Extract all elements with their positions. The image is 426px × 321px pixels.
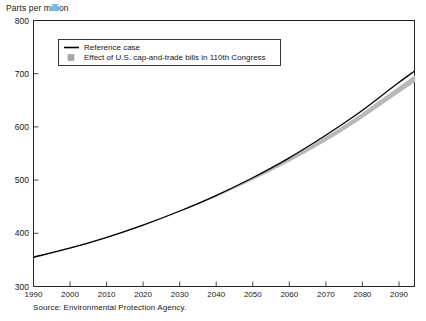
y-tick-label: 500 [15, 175, 29, 185]
x-tick-label: 2020 [134, 290, 152, 299]
x-tick-label: 2070 [317, 290, 335, 299]
y-tick-marks [34, 21, 39, 287]
cap-and-trade-band [34, 76, 415, 257]
x-tick-label: 2000 [61, 290, 79, 299]
chart-figure: Parts per million 800 700 600 500 400 30… [0, 0, 426, 321]
legend-label-reference: Reference case [84, 43, 141, 52]
y-tick-label: 800 [15, 16, 29, 26]
x-tick-label: 2010 [98, 290, 116, 299]
x-tick-label: 2050 [244, 290, 262, 299]
x-tick-label: 2090 [390, 290, 408, 299]
y-tick-labels: 800 700 600 500 400 300 [15, 16, 29, 292]
source-note: Source: Environmental Protection Agency. [33, 303, 186, 312]
legend-square-swatch [68, 55, 74, 61]
x-tick-label: 2040 [207, 290, 225, 299]
x-tick-labels: 1990 2000 2010 2020 2030 2040 2050 2060 … [25, 290, 409, 299]
y-tick-label: 600 [15, 122, 29, 132]
y-tick-label: 400 [15, 228, 29, 238]
plot-area: 800 700 600 500 400 300 1990 2000 2010 [0, 0, 426, 321]
y-tick-label: 700 [15, 69, 29, 79]
x-tick-label: 2030 [171, 290, 189, 299]
x-tick-label: 2060 [280, 290, 298, 299]
data-layer [34, 71, 415, 257]
chart-legend: Reference case Effect of U.S. cap-and-tr… [59, 40, 281, 66]
reference-case-line [34, 71, 415, 257]
x-tick-label: 2080 [354, 290, 372, 299]
x-tick-marks [34, 282, 400, 287]
x-tick-label: 1990 [25, 290, 43, 299]
legend-label-captrade: Effect of U.S. cap-and-trade bills in 11… [84, 53, 266, 62]
